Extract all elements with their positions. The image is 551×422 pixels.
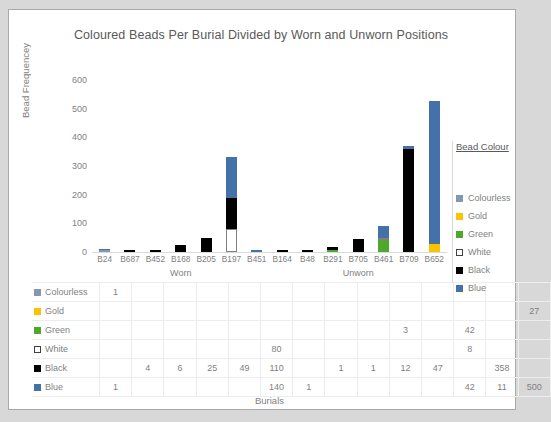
table-cell [132,321,164,340]
x-tick-label-b291: B291 [320,254,345,264]
table-cell: 42 [454,378,486,397]
table-cell [261,321,293,340]
x-axis-group-labels: WornUnworn [92,268,447,282]
table-cell: 1 [325,359,357,378]
table-cell [228,283,260,302]
table-cell [325,340,357,359]
x-axis-ticks: B24B687B452B168B205B197B451B164B48B291B7… [92,254,447,267]
bar-column [422,101,447,252]
table-cell: 80 [261,340,293,359]
table-cell [196,283,228,302]
table-cell [132,302,164,321]
table-cell [357,283,389,302]
table-cell [293,359,325,378]
table-row-label: Gold [32,302,100,321]
table-cell [196,378,228,397]
bar-segment-blue [378,226,389,238]
table-cell: 1 [293,378,325,397]
table-cell [422,321,454,340]
table-cell: 8 [454,340,486,359]
legend-swatch-white-icon [456,249,463,256]
table-cell [293,321,325,340]
y-tick-label: 300 [47,161,87,171]
x-tick-label-b705: B705 [346,254,371,264]
table-cell [100,302,132,321]
legend-label: Green [468,229,493,239]
legend-label: Black [468,265,490,275]
bar-column [193,238,218,252]
table-cell: 4 [132,359,164,378]
x-tick-label-b709: B709 [396,254,421,264]
bar-column [219,157,244,252]
table-cell [164,340,196,359]
legend-item-gold: Gold [456,207,520,225]
legend-item-colourless: Colourless [456,189,520,207]
table-row: Blue114014211500 [32,378,550,397]
bar-segment-blue [226,157,237,197]
table-row-label: Blue [32,378,100,397]
legend-label: Colourless [468,193,511,203]
x-tick-label-b197: B197 [219,254,244,264]
table-row: White808 [32,340,550,359]
bar-column [396,146,421,252]
table-cell [293,302,325,321]
x-tick-label-b48: B48 [295,254,320,264]
table-cell [325,283,357,302]
bar-segment-black [226,198,237,230]
table-cell [100,359,132,378]
table-cell [132,283,164,302]
y-tick-label: 100 [47,218,87,228]
table-cell [293,340,325,359]
group-label-unworn: Unworn [270,268,448,278]
table-cell [100,321,132,340]
table-cell [132,340,164,359]
x-axis-line [92,252,447,253]
table-cell [132,378,164,397]
legend-items: ColourlessGoldGreenWhiteBlackBlue [456,189,520,297]
legend: Bead Colour ColourlessGoldGreenWhiteBlac… [456,141,520,297]
table-row-label-text: Colourless [45,287,88,297]
legend-swatch-blue-icon [456,285,463,292]
legend-swatch-black-icon [456,267,463,274]
legend-swatch-gold-icon [456,213,463,220]
table-cell [518,321,550,340]
table-cell [486,340,518,359]
bar-segment-white [226,229,237,252]
bar-segment-green [378,240,389,252]
data-table: Colourless1Gold27Green342White808Black46… [32,282,551,397]
table-cell [518,340,550,359]
table-cell [357,321,389,340]
table-cell [164,283,196,302]
x-tick-label-b687: B687 [117,254,142,264]
table-cell [357,302,389,321]
table-cell [196,340,228,359]
legend-swatch-green-icon [456,231,463,238]
table-cell [454,302,486,321]
table-cell: 358 [486,359,518,378]
legend-divider [452,141,453,283]
x-tick-label-b164: B164 [270,254,295,264]
legend-item-green: Green [456,225,520,243]
table-cell: 47 [422,359,454,378]
table-row-label-text: Blue [45,382,63,392]
table-cell: 1 [357,359,389,378]
table-cell [518,283,550,302]
legend-label: Blue [468,283,486,293]
table-row-label: Green [32,321,100,340]
y-axis-title: Bead Frequencey [20,43,31,118]
colour-swatch-green-icon [34,327,41,334]
table-cell: 25 [196,359,228,378]
colour-swatch-blue-icon [34,384,41,391]
table-cell: 110 [261,359,293,378]
y-tick-label: 400 [47,132,87,142]
table-cell [196,302,228,321]
table-cell: 42 [454,321,486,340]
table-row: Black462549110111247358 [32,359,550,378]
table-cell: 49 [228,359,260,378]
y-tick-label: 500 [47,104,87,114]
bar-segment-black [403,149,414,252]
y-tick-label: 200 [47,190,87,200]
chart-container: Coloured Beads Per Burial Divided by Wor… [8,9,516,410]
table-cell [164,302,196,321]
x-tick-label-b168: B168 [168,254,193,264]
